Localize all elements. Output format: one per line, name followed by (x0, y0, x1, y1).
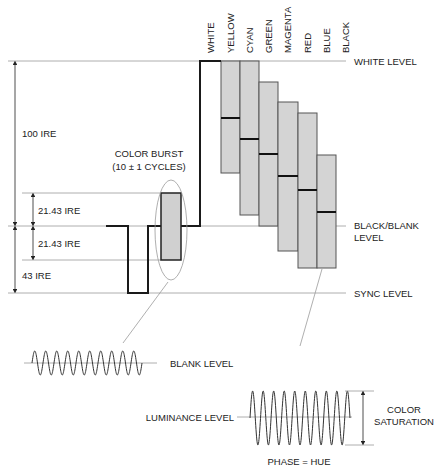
color-burst-cycles-label: (10 ± 1 CYCLES) (112, 161, 185, 172)
blank-level-label: BLANK LEVEL (170, 358, 233, 369)
burst-pointer-line (123, 282, 168, 343)
burst-sine-wave (32, 351, 142, 375)
label-red: RED (302, 33, 313, 53)
label-magenta: MAGENTA (282, 6, 293, 53)
white-level-label: WHITE LEVEL (354, 56, 417, 67)
color-bar-labels: WHITE YELLOW CYAN GREEN MAGENTA RED BLUE… (205, 6, 351, 53)
luminance-level-label: LUMINANCE LEVEL (146, 412, 234, 423)
color-burst-label: COLOR BURST (115, 148, 184, 159)
label-blue: BLUE (321, 28, 332, 53)
ntsc-waveform-diagram: 100 IRE 21.43 IRE 21.43 IRE 43 IRE COLOR… (0, 0, 436, 475)
label-green: GREEN (263, 19, 274, 53)
chroma-pointer-line (300, 269, 322, 346)
label-black: BLACK (340, 21, 351, 53)
ire-2143-lower-label: 21.43 IRE (38, 238, 80, 249)
label-white: WHITE (205, 22, 216, 53)
label-yellow: YELLOW (225, 13, 236, 53)
black-blank-level-label-2: LEVEL (354, 232, 384, 243)
ire-100-label: 100 IRE (22, 128, 56, 139)
ire-2143-upper-label: 21.43 IRE (38, 205, 80, 216)
chroma-sine-wave (250, 391, 350, 445)
color-saturation-label: COLOR (387, 404, 421, 415)
sync-waveform (106, 226, 161, 293)
black-blank-level-label: BLACK/BLANK (354, 220, 420, 231)
phase-hue-label: PHASE = HUE (267, 456, 330, 467)
color-saturation-label-2: SATURATION (374, 416, 434, 427)
color-burst-box (161, 193, 181, 260)
sync-level-label: SYNC LEVEL (354, 288, 413, 299)
label-cyan: CYAN (244, 27, 255, 53)
white-bar-waveform (181, 61, 221, 226)
ire-43-label: 43 IRE (22, 270, 51, 281)
color-bars (221, 61, 336, 268)
